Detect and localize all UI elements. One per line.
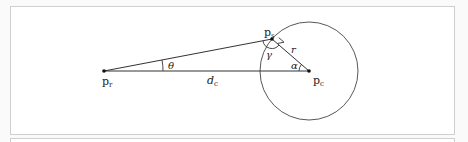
label-gamma: γ [266,49,272,60]
label-alpha: α [291,60,298,71]
label-pr: pr [102,75,113,89]
label-dc: dc [207,74,218,88]
geometry-diagram: pr ps pc dc θ γ α r [0,0,468,142]
line-pr-ps [104,39,272,71]
alpha-arc [299,65,301,72]
point-pr [102,69,106,73]
label-pc: pc [313,74,324,88]
right-angle-marker [277,38,284,44]
point-pc [307,69,311,73]
gamma-arc [263,41,279,49]
label-ps: ps [264,26,275,40]
theta-arc [162,60,163,71]
label-theta: θ [168,60,174,71]
label-r: r [291,44,297,55]
